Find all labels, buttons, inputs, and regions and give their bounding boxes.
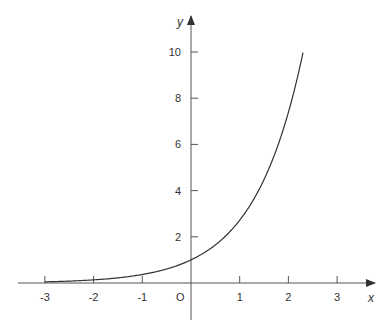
origin-label: O xyxy=(176,291,185,303)
y-tick-label: 10 xyxy=(169,46,181,58)
y-ticks: 246810 xyxy=(169,46,198,243)
x-tick-label: -2 xyxy=(89,291,99,303)
y-tick-label: 4 xyxy=(175,185,181,197)
x-tick-label: -3 xyxy=(40,291,50,303)
x-axis-label: x xyxy=(367,291,375,305)
axes xyxy=(18,16,375,320)
y-tick-label: 2 xyxy=(175,231,181,243)
x-tick-label: -1 xyxy=(137,291,147,303)
chart-canvas: -3-2-1123 246810 x y O xyxy=(0,0,389,332)
x-tick-label: 1 xyxy=(237,291,243,303)
exponential-curve xyxy=(45,53,303,282)
y-tick-label: 8 xyxy=(175,92,181,104)
x-tick-label: 2 xyxy=(285,291,291,303)
x-tick-label: 3 xyxy=(334,291,340,303)
y-tick-label: 6 xyxy=(175,138,181,150)
y-axis-label: y xyxy=(176,15,184,29)
